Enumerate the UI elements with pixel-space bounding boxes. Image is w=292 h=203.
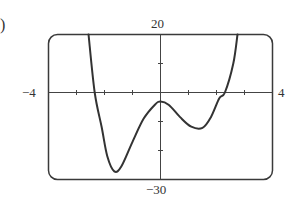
axes bbox=[49, 35, 273, 180]
graph-plot bbox=[0, 0, 292, 203]
function-curve bbox=[89, 35, 238, 173]
